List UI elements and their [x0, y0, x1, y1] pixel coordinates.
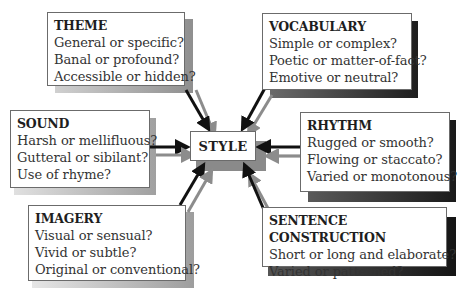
theme-title: THEME: [54, 17, 178, 34]
sound-title: SOUND: [17, 115, 143, 132]
arrow-sentence-dark: [245, 166, 264, 210]
imagery-question: Original or conventional?: [35, 261, 179, 278]
rhythm-title: RHYTHM: [307, 117, 443, 134]
imagery-title: IMAGERY: [35, 210, 179, 227]
theme-question: General or specific?: [54, 34, 178, 51]
vocabulary-question: Emotive or neutral?: [269, 69, 405, 86]
arrow-imagery-gray: [188, 172, 211, 212]
sentence-construction-question: Varied or patterned?: [269, 263, 440, 280]
imagery-box: IMAGERY Visual or sensual? Vivid or subt…: [28, 205, 186, 281]
style-label: STYLE: [199, 139, 248, 154]
style-center-box: STYLE: [190, 131, 256, 161]
rhythm-question: Rugged or smooth?: [307, 134, 443, 151]
sentence-construction-title: SENTENCE CONSTRUCTION: [269, 212, 440, 246]
theme-box: THEME General or specific? Banal or prof…: [47, 12, 185, 86]
rhythm-question: Flowing or staccato?: [307, 151, 443, 168]
arrow-vocab-gray: [249, 95, 272, 133]
imagery-question: Vivid or subtle?: [35, 244, 179, 261]
sound-box: SOUND Harsh or mellifluous? Gutteral or …: [10, 110, 150, 188]
sound-question: Harsh or mellifluous?: [17, 132, 143, 149]
vocabulary-question: Poetic or matter-of-fact?: [269, 52, 405, 69]
vocabulary-title: VOCABULARY: [269, 18, 405, 35]
theme-question: Accessible or hidden?: [54, 68, 178, 85]
rhythm-question: Varied or monotonous?: [307, 168, 443, 185]
theme-question: Banal or profound?: [54, 51, 178, 68]
sound-question: Use of rhyme?: [17, 166, 143, 183]
sentence-construction-question: Short or long and elaborate?: [269, 246, 440, 263]
imagery-question: Visual or sensual?: [35, 227, 179, 244]
rhythm-box: RHYTHM Rugged or smooth? Flowing or stac…: [300, 112, 450, 192]
vocabulary-box: VOCABULARY Simple or complex? Poetic or …: [262, 13, 412, 90]
sound-question: Gutteral or sibilant?: [17, 149, 143, 166]
arrow-imagery-dark: [180, 166, 203, 205]
sentence-construction-box: SENTENCE CONSTRUCTION Short or long and …: [262, 207, 447, 267]
vocabulary-question: Simple or complex?: [269, 35, 405, 52]
